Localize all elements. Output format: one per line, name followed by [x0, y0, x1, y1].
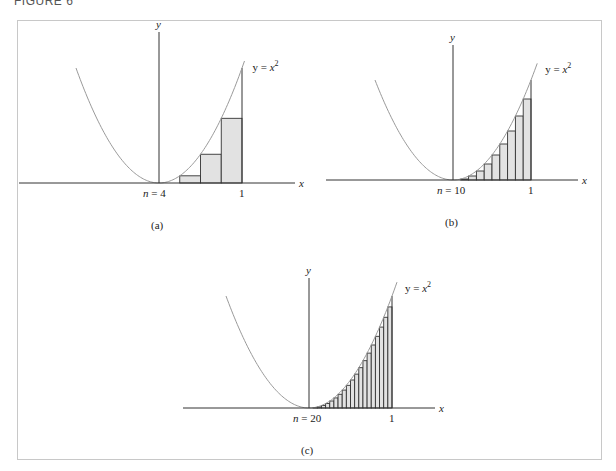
- riemann-rectangle: [338, 394, 342, 408]
- riemann-rectangle: [476, 171, 484, 180]
- tick-label-one: 1: [528, 184, 534, 196]
- riemann-rectangle: [523, 99, 531, 180]
- panel-caption: (c): [301, 444, 314, 457]
- panel-caption: (b): [445, 216, 458, 229]
- riemann-rectangle: [334, 398, 338, 408]
- curve-label: y = x2: [545, 61, 571, 75]
- riemann-rectangle: [469, 176, 477, 180]
- panel-a: yx1n = 4y = x2(a): [19, 18, 304, 232]
- curve-label: y = x2: [405, 280, 431, 294]
- riemann-rectangle: [492, 155, 500, 180]
- curve-label: y = x2: [252, 59, 278, 73]
- n-label: n = 4: [143, 187, 166, 199]
- riemann-rectangle: [359, 368, 363, 408]
- y-axis-label: y: [305, 264, 311, 276]
- riemann-rectangle: [515, 116, 523, 180]
- riemann-rectangle: [484, 164, 492, 180]
- riemann-rectangle: [384, 317, 388, 408]
- riemann-rectangle: [508, 131, 516, 180]
- n-label: n = 20: [293, 412, 322, 424]
- riemann-rectangle: [367, 353, 371, 408]
- riemann-rectangle: [326, 404, 330, 408]
- x-axis-label: x: [438, 402, 444, 414]
- y-axis-label: y: [155, 18, 161, 30]
- riemann-rectangle: [330, 401, 334, 408]
- y-axis-label: y: [449, 31, 455, 43]
- riemann-rectangle: [201, 154, 222, 183]
- n-label: n = 10: [437, 184, 466, 196]
- riemann-rectangle: [346, 385, 350, 408]
- x-axis-label: x: [298, 177, 304, 189]
- panel-b: yx1n = 10y = x2(b): [326, 31, 587, 229]
- riemann-sum-figure: yx1n = 4y = x2(a)yx1n = 10y = x2(b)yx1n …: [0, 0, 616, 471]
- panel-c: yx1n = 20y = x2(c): [183, 264, 444, 457]
- panel-caption: (a): [151, 219, 164, 232]
- riemann-rectangle: [380, 327, 384, 408]
- x-axis-label: x: [581, 174, 587, 186]
- riemann-rectangle: [500, 144, 508, 180]
- riemann-rectangle: [221, 118, 242, 183]
- riemann-rectangle: [351, 380, 355, 408]
- riemann-rectangle: [342, 390, 346, 408]
- riemann-rectangle: [363, 361, 367, 408]
- tick-label-one: 1: [239, 187, 245, 199]
- riemann-rectangle: [375, 336, 379, 408]
- riemann-rectangle: [180, 176, 201, 183]
- tick-label-one: 1: [389, 412, 395, 424]
- riemann-rectangle: [355, 374, 359, 408]
- riemann-rectangle: [371, 345, 375, 408]
- riemann-rectangle: [388, 307, 392, 408]
